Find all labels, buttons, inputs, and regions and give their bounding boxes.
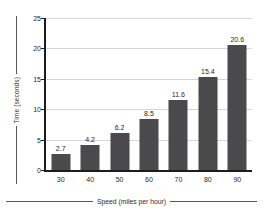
bar-value-label: 4.2 [85, 136, 95, 143]
bar-slot: 2.7 [46, 18, 75, 170]
x-tick-label: 40 [86, 176, 94, 183]
x-tick-label: 30 [57, 176, 65, 183]
bar-chart: Time (seconds) 0510152025 2.74.26.28.511… [0, 0, 263, 215]
y-axis-label-rule-bottom [16, 126, 17, 184]
bar-series: 2.74.26.28.511.615.420.6 [46, 18, 252, 170]
x-axis-line [44, 170, 252, 172]
y-tick-label: 0 [24, 167, 41, 174]
x-axis-tick-labels: 30405060708090 [46, 176, 252, 188]
bar-slot: 20.6 [223, 18, 252, 170]
bar [198, 77, 217, 171]
bar [139, 119, 158, 171]
bar-value-label: 11.6 [172, 91, 185, 98]
bar-value-label: 8.5 [144, 110, 154, 117]
bar [51, 154, 70, 170]
x-tick-label: 80 [204, 176, 212, 183]
x-axis-label-group: Speed (miles per hour) [6, 195, 257, 207]
bar-value-label: 6.2 [115, 124, 125, 131]
x-axis-label-rule-left [6, 201, 93, 202]
y-axis-label-group: Time (seconds) [8, 16, 24, 184]
y-tick-label: 15 [24, 75, 41, 82]
bar [169, 100, 188, 171]
x-tick-label: 70 [175, 176, 183, 183]
y-tick-label: 10 [24, 106, 41, 113]
bar-slot: 8.5 [134, 18, 163, 170]
y-axis-label: Time (seconds) [13, 74, 20, 127]
bar [81, 145, 100, 171]
bar [228, 45, 247, 171]
bar-value-label: 2.7 [56, 145, 66, 152]
y-tick-label: 25 [24, 15, 41, 22]
y-tick-label: 5 [24, 136, 41, 143]
bar [110, 133, 129, 171]
bar-slot: 4.2 [75, 18, 104, 170]
x-tick-label: 60 [145, 176, 153, 183]
x-axis-label-rule-right [170, 201, 257, 202]
y-tick-label: 20 [24, 45, 41, 52]
x-tick-label: 90 [233, 176, 241, 183]
x-tick-label: 50 [116, 176, 124, 183]
y-axis-tick-labels: 0510152025 [24, 0, 41, 215]
plot-area: 2.74.26.28.511.615.420.6 [44, 18, 252, 172]
x-axis-label: Speed (miles per hour) [93, 198, 170, 205]
bar-slot: 6.2 [105, 18, 134, 170]
bar-slot: 11.6 [164, 18, 193, 170]
bar-slot: 15.4 [193, 18, 222, 170]
y-axis-label-rule-top [16, 16, 17, 74]
bar-value-label: 15.4 [201, 68, 215, 75]
bar-value-label: 20.6 [230, 36, 244, 43]
